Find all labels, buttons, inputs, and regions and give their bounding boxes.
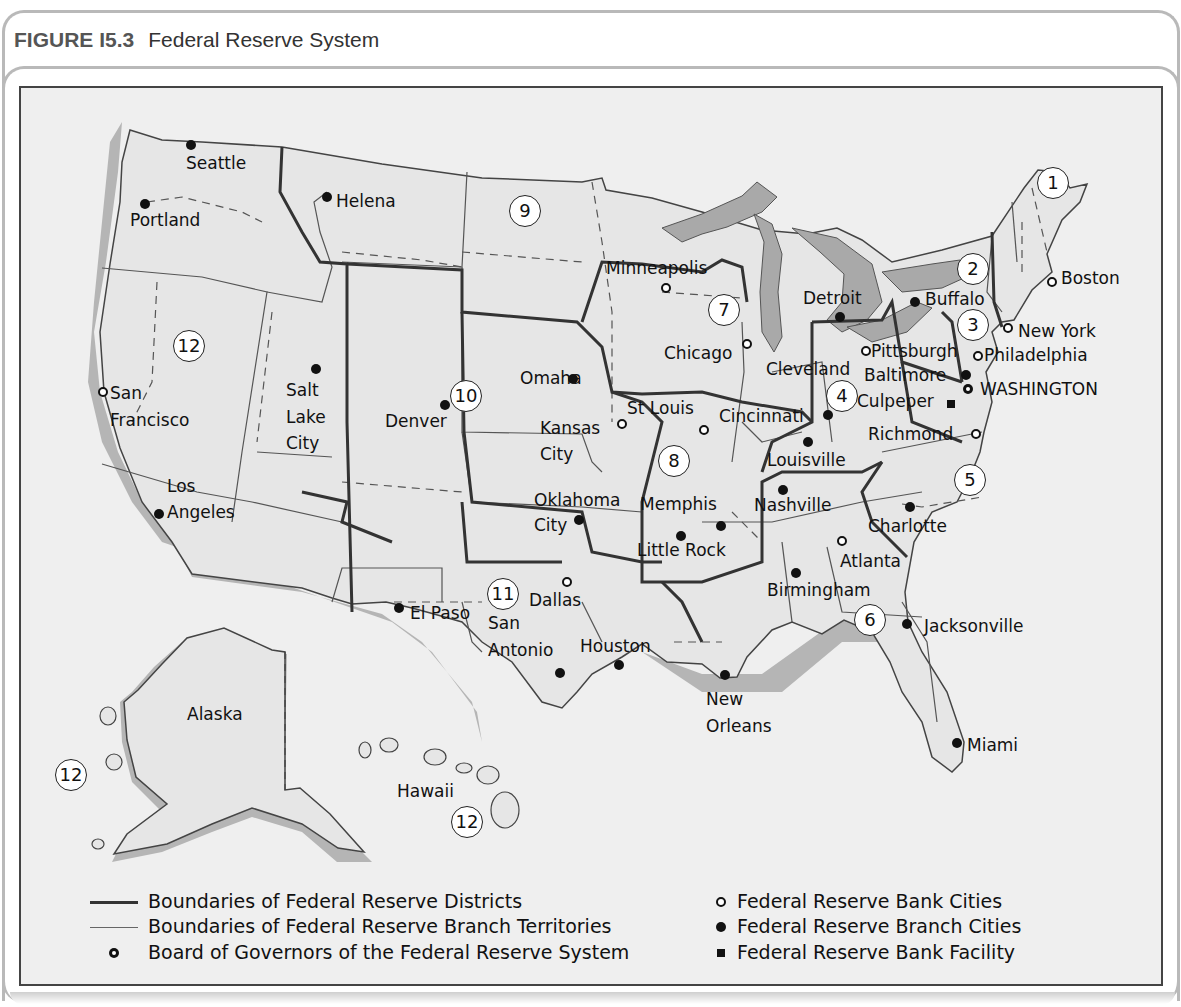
legend-label: Federal Reserve Bank Cities [737, 890, 1002, 912]
legend-label: Federal Reserve Branch Cities [737, 915, 1021, 937]
label-oklahoma: Oklahoma [534, 490, 621, 510]
district-10-badge: 10 [450, 380, 482, 412]
label-kansas-city: City [540, 444, 573, 464]
frame-shadow [10, 992, 1175, 1004]
label-richmond: Richmond [868, 424, 953, 444]
legend-label: Boundaries of Federal Reserve Branch Ter… [148, 915, 611, 937]
thin-line-icon [90, 927, 138, 929]
figure-name: Federal Reserve System [148, 28, 379, 51]
alaska-shape [112, 628, 372, 862]
label-boston: Boston [1061, 268, 1120, 288]
label-oklahoma-city: City [534, 515, 567, 535]
label-lake: Lake [286, 407, 326, 427]
label-el-paso: El Paso [410, 603, 470, 623]
district-9-badge: 9 [509, 195, 541, 227]
open-circle-icon [715, 890, 727, 912]
label-francisco: Francisco [110, 410, 189, 430]
label-houston: Houston [580, 636, 651, 656]
label-memphis: Memphis [640, 494, 717, 514]
legend-bank-cities: Federal Reserve Bank Cities [715, 890, 1002, 912]
district-12-hawaii-badge: 12 [451, 806, 483, 838]
label-buffalo: Buffalo [925, 289, 985, 309]
board-dot-icon [90, 941, 138, 963]
label-omaha: Omaha [520, 368, 582, 388]
thick-line-icon [90, 901, 138, 904]
label-dallas: Dallas [529, 590, 581, 610]
district-1-badge: 1 [1037, 167, 1069, 199]
legend-district-boundaries: Boundaries of Federal Reserve Districts [90, 890, 522, 912]
label-detroit: Detroit [803, 288, 862, 308]
district-11-badge: 11 [487, 578, 519, 610]
label-baltimore: Baltimore [864, 365, 946, 385]
district-4-badge: 4 [826, 380, 858, 412]
label-charlotte: Charlotte [868, 516, 947, 536]
label-slc-city: City [286, 433, 319, 453]
label-antonio: Antonio [488, 640, 553, 660]
board-of-governors-marker [963, 384, 973, 394]
district-8-badge: 8 [658, 445, 690, 477]
label-minneapolis: Minneapolis [606, 258, 707, 278]
district-3-badge: 3 [957, 309, 989, 341]
legend-label: Board of Governors of the Federal Reserv… [148, 941, 629, 963]
district-6-badge: 6 [854, 604, 886, 636]
figure-title: FIGURE I5.3Federal Reserve System [14, 28, 379, 52]
legend-board: Board of Governors of the Federal Reserv… [90, 941, 629, 963]
district-12-alaska-badge: 12 [55, 759, 87, 791]
legend-label: Federal Reserve Bank Facility [737, 941, 1015, 963]
legend-facility: Federal Reserve Bank Facility [715, 941, 1015, 963]
label-new: New [706, 689, 743, 709]
label-cincinnati: Cincinnati [719, 406, 804, 426]
label-atlanta: Atlanta [840, 551, 901, 571]
filled-circle-icon [715, 915, 727, 937]
label-salt: Salt [286, 380, 319, 400]
label-orleans: Orleans [706, 716, 772, 736]
label-cleveland: Cleveland [766, 359, 850, 379]
label-miami: Miami [967, 735, 1018, 755]
label-chicago: Chicago [664, 343, 732, 363]
label-nashville: Nashville [754, 495, 831, 515]
label-birmingham: Birmingham [767, 580, 871, 600]
label-angeles: Angeles [167, 502, 235, 522]
district-5-badge: 5 [954, 464, 986, 496]
district-7-badge: 7 [708, 294, 740, 326]
label-jacksonville: Jacksonville [924, 616, 1023, 636]
label-sf-san: San [110, 383, 142, 403]
legend-label: Boundaries of Federal Reserve Districts [148, 890, 522, 912]
label-hawaii: Hawaii [397, 781, 454, 801]
district-12-badge: 12 [173, 330, 205, 362]
label-philadelphia: Philadelphia [984, 345, 1088, 365]
district-2-badge: 2 [957, 253, 989, 285]
label-washington: WASHINGTON [980, 379, 1098, 399]
label-new-york: New York [1018, 321, 1096, 341]
figure-number: FIGURE I5.3 [14, 28, 134, 51]
label-louisville: Louisville [767, 450, 846, 470]
label-san: San [488, 613, 520, 633]
label-seattle: Seattle [186, 153, 246, 173]
label-los: Los [167, 476, 195, 496]
label-culpeper: Culpeper [857, 391, 934, 411]
legend-branch-cities: Federal Reserve Branch Cities [715, 915, 1021, 937]
bank-facility-marker [947, 400, 955, 408]
label-st-louis: St Louis [627, 398, 694, 418]
label-kansas: Kansas [540, 418, 600, 438]
label-helena: Helena [336, 191, 396, 211]
filled-square-icon [715, 941, 727, 963]
label-little-rock: Little Rock [637, 540, 726, 560]
legend-branch-boundaries: Boundaries of Federal Reserve Branch Ter… [90, 915, 611, 937]
label-denver: Denver [385, 411, 447, 431]
label-portland: Portland [130, 210, 200, 230]
label-pittsburgh: Pittsburgh [871, 341, 958, 361]
label-alaska: Alaska [187, 704, 243, 724]
